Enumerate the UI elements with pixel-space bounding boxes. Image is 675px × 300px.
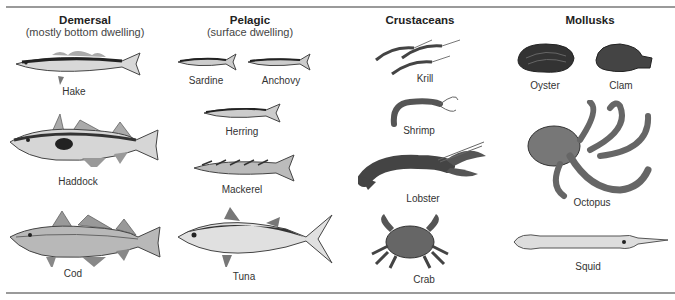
herring-illustration (202, 102, 282, 124)
hake-illustration (12, 47, 142, 87)
mollusks-title: Mollusks (530, 14, 650, 26)
bottom-rule (6, 292, 675, 294)
sardine-illustration (176, 52, 238, 72)
crab-illustration (370, 210, 450, 270)
label-lobster: Lobster (406, 193, 439, 204)
label-octopus: Octopus (573, 197, 610, 208)
mollusks-header: Mollusks (530, 14, 650, 26)
anchovy-illustration (246, 52, 312, 72)
label-hake: Hake (62, 86, 85, 97)
label-herring: Herring (226, 126, 259, 137)
label-tuna: Tuna (233, 271, 255, 282)
label-crab: Crab (413, 274, 435, 285)
crustaceans-header: Crustaceans (360, 14, 480, 26)
top-rule (6, 6, 675, 8)
label-anchovy: Anchovy (262, 75, 300, 86)
demersal-title: Demersal (15, 14, 155, 26)
demersal-header: Demersal (mostly bottom dwelling) (15, 14, 155, 38)
label-cod: Cod (64, 268, 82, 279)
tuna-illustration (176, 207, 336, 267)
octopus-illustration (520, 100, 660, 200)
squid-illustration (510, 228, 670, 254)
demersal-subtitle: (mostly bottom dwelling) (15, 26, 155, 38)
label-mackerel: Mackerel (222, 184, 263, 195)
cod-illustration (6, 207, 161, 267)
pelagic-header: Pelagic (surface dwelling) (180, 14, 320, 38)
pelagic-title: Pelagic (180, 14, 320, 26)
label-sardine: Sardine (189, 75, 223, 86)
haddock-illustration (6, 112, 161, 167)
label-krill: Krill (417, 73, 434, 84)
label-squid: Squid (575, 261, 601, 272)
label-clam: Clam (609, 80, 632, 91)
label-shrimp: Shrimp (403, 125, 435, 136)
clam-illustration (594, 40, 654, 76)
mackerel-illustration (192, 153, 296, 183)
lobster-illustration (358, 140, 488, 200)
label-oyster: Oyster (530, 80, 559, 91)
krill-illustration (372, 38, 462, 78)
oyster-illustration (516, 40, 576, 76)
label-haddock: Haddock (58, 176, 97, 187)
crustaceans-title: Crustaceans (360, 14, 480, 26)
pelagic-subtitle: (surface dwelling) (180, 26, 320, 38)
